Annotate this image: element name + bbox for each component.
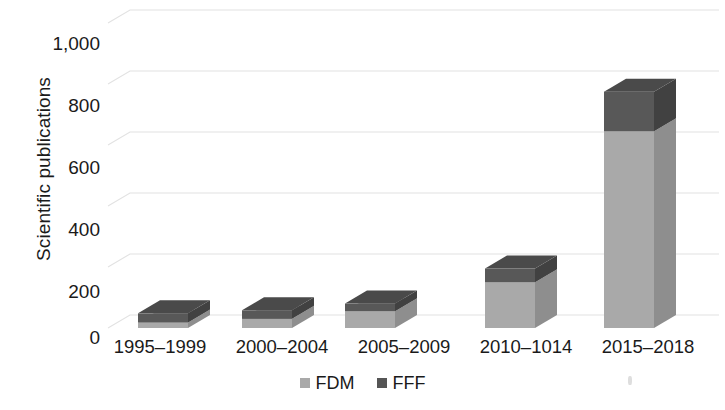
bar-5-fdm-side-face (654, 118, 676, 328)
legend-label-fff: FFF (393, 374, 426, 392)
bar-4-fdm-front-face (485, 282, 535, 328)
y-tick-label-200: 200 (16, 282, 100, 301)
x-tick-label-1: 1995–1999 (100, 336, 220, 358)
legend-swatch-fff-icon (377, 378, 387, 388)
x-axis-tick-labels: 1995–1999 2000–2004 2005–2009 2010–1014 … (0, 336, 725, 370)
bar-column-3[interactable] (345, 291, 417, 328)
bar-3-fff-front-face (345, 304, 395, 312)
plot-area (100, 0, 725, 350)
x-tick-label-4: 2010–1014 (466, 336, 586, 358)
bar-column-5[interactable] (604, 79, 676, 328)
gridline-1000 (108, 10, 719, 23)
scan-artifact-speck (628, 376, 632, 385)
bar-5-fdm-front-face (604, 131, 654, 328)
bar-1-fff-front-face (138, 313, 188, 322)
bar-1-fdm-front-face (138, 323, 188, 328)
bar-series-group (138, 79, 676, 328)
x-tick-label-5: 2015–2018 (588, 336, 708, 358)
chart-legend: FDM FFF (0, 374, 725, 392)
bar-column-2[interactable] (242, 297, 314, 328)
x-tick-label-3: 2005–2009 (344, 336, 464, 358)
y-tick-label-800: 800 (16, 96, 100, 115)
plot-svg (100, 0, 725, 350)
legend-item-fff[interactable]: FFF (377, 374, 426, 392)
legend-item-fdm[interactable]: FDM (300, 374, 355, 392)
x-tick-label-2: 2000–2004 (222, 336, 342, 358)
bar-3-fdm-front-face (345, 311, 395, 328)
y-tick-label-600: 600 (16, 158, 100, 177)
chart-container: Scientific publications 1,000 800 600 40… (0, 0, 725, 410)
bar-5-fff-front-face (604, 92, 654, 132)
bar-4-fff-front-face (485, 269, 535, 283)
legend-label-fdm: FDM (316, 374, 355, 392)
bar-column-4[interactable] (485, 256, 557, 328)
y-tick-label-1000: 1,000 (16, 34, 100, 53)
legend-swatch-fdm-icon (300, 378, 310, 388)
bar-column-1[interactable] (138, 300, 210, 328)
y-tick-label-400: 400 (16, 220, 100, 239)
bar-2-fdm-front-face (242, 319, 292, 328)
bar-2-fff-front-face (242, 310, 292, 319)
